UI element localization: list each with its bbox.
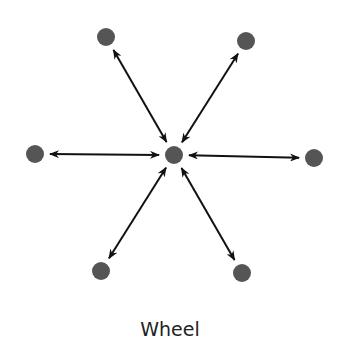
node-center: [165, 146, 183, 164]
arrow-bottom-right: [181, 168, 234, 260]
node-left: [26, 145, 44, 163]
wheel-diagram: [0, 0, 340, 353]
diagram-title: Wheel: [0, 318, 340, 340]
arrow-bottom-left: [109, 168, 166, 259]
node-bottom-right: [233, 264, 251, 282]
arrow-top-left: [113, 50, 166, 142]
arrow-right: [189, 155, 299, 157]
node-top-right: [237, 32, 255, 50]
node-right: [305, 149, 323, 167]
arrow-top-right: [182, 54, 238, 143]
node-bottom-left: [92, 262, 110, 280]
node-top-left: [97, 28, 115, 46]
arrow-left: [50, 154, 159, 155]
